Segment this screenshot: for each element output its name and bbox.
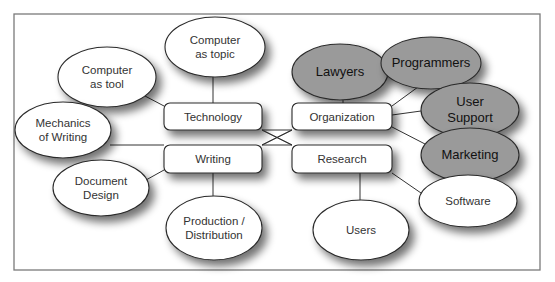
node-marketing[interactable]: Marketing — [421, 128, 519, 182]
node-label: Software — [445, 195, 490, 207]
connector-programmers-organization — [392, 87, 418, 106]
node-label: Lawyers — [316, 64, 365, 79]
node-label: Programmers — [392, 55, 471, 70]
node-technology[interactable]: Technology — [164, 103, 262, 130]
ellipse-shape — [58, 47, 156, 107]
node-lawyers[interactable]: Lawyers — [292, 44, 388, 100]
node-writing[interactable]: Writing — [164, 145, 262, 173]
box-label: Writing — [195, 153, 231, 165]
node-programmers[interactable]: Programmers — [381, 37, 481, 89]
node-label: Support — [447, 110, 493, 125]
ellipse-shape — [15, 102, 111, 158]
node-label: Design — [83, 189, 119, 201]
node-label: Marketing — [441, 147, 498, 162]
node-label: User — [456, 94, 484, 109]
node-computer-as-topic[interactable]: Computeras topic — [165, 17, 265, 77]
box-label: Technology — [184, 111, 242, 123]
box-nodes: TechnologyWritingOrganizationResearch — [164, 103, 392, 173]
concept-map-diagram: Computeras topicComputeras toolMechanics… — [0, 0, 555, 282]
box-label: Organization — [309, 111, 374, 123]
node-production-distribution[interactable]: Production /Distribution — [166, 196, 262, 260]
box-label: Research — [317, 153, 366, 165]
node-label: Computer — [190, 34, 241, 46]
node-software[interactable]: Software — [419, 175, 517, 227]
node-label: as tool — [90, 78, 124, 90]
ellipse-shape — [166, 196, 262, 260]
node-label: Computer — [82, 64, 133, 76]
connector-marketing-organization — [392, 127, 425, 144]
node-label: Distribution — [185, 229, 243, 241]
node-label: Production / — [183, 215, 245, 227]
connector-computer-as-tool-technology — [145, 96, 164, 106]
node-label: of Writing — [39, 131, 87, 143]
ellipse-shape — [53, 160, 149, 216]
node-computer-as-tool[interactable]: Computeras tool — [58, 47, 156, 107]
node-mechanics-of-writing[interactable]: Mechanicsof Writing — [15, 102, 111, 158]
node-label: Mechanics — [36, 117, 91, 129]
connection-lines — [110, 77, 425, 200]
node-document-design[interactable]: DocumentDesign — [53, 160, 149, 216]
node-organization[interactable]: Organization — [292, 103, 392, 130]
ellipse-nodes: Computeras topicComputeras toolMechanics… — [15, 17, 519, 260]
connector-document-design-writing — [146, 170, 164, 180]
connector-software-research — [392, 173, 421, 193]
node-label: Document — [75, 175, 128, 187]
node-users[interactable]: Users — [313, 200, 409, 260]
connector-user-support-organization — [392, 111, 421, 115]
ellipse-shape — [165, 17, 265, 77]
node-label: as topic — [195, 48, 235, 60]
node-research[interactable]: Research — [292, 145, 392, 173]
node-label: Users — [346, 224, 376, 236]
